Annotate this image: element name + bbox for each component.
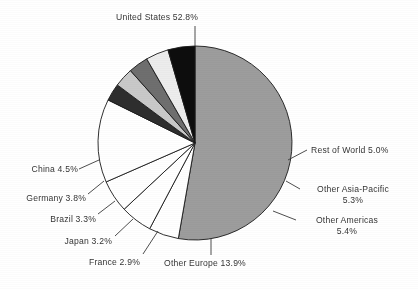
leader-germany: [88, 181, 104, 194]
pie-slice-group: [98, 46, 292, 240]
pie-chart: United States 52.8% Rest of World 5.0% O…: [0, 0, 418, 289]
label-other-asia-pacific: Other Asia-Pacific 5.3%: [303, 184, 403, 205]
label-other-europe: Other Europe 13.9%: [164, 258, 246, 269]
label-other-asia-pacific-pct: 5.3%: [303, 195, 403, 206]
label-united-states: United States 52.8%: [116, 12, 198, 23]
leader-other-americas: [273, 211, 296, 220]
leader-china: [79, 160, 99, 169]
label-other-asia-pacific-name: Other Asia-Pacific: [317, 184, 389, 194]
label-rest-of-world: Rest of World 5.0%: [311, 145, 388, 156]
label-germany: Germany 3.8%: [0, 193, 86, 204]
leader-japan: [115, 219, 133, 236]
label-brazil: Brazil 3.3%: [6, 214, 96, 225]
label-france: France 2.9%: [34, 257, 140, 268]
leader-france: [143, 231, 158, 254]
leader-brazil: [98, 201, 115, 214]
label-other-americas-pct: 5.4%: [299, 226, 395, 237]
label-japan: Japan 3.2%: [16, 236, 112, 247]
label-other-americas-name: Other Americas: [316, 215, 378, 225]
label-china: China 4.5%: [4, 164, 78, 175]
label-other-americas: Other Americas 5.4%: [299, 215, 395, 236]
leader-other-asia-pacific: [286, 181, 300, 189]
